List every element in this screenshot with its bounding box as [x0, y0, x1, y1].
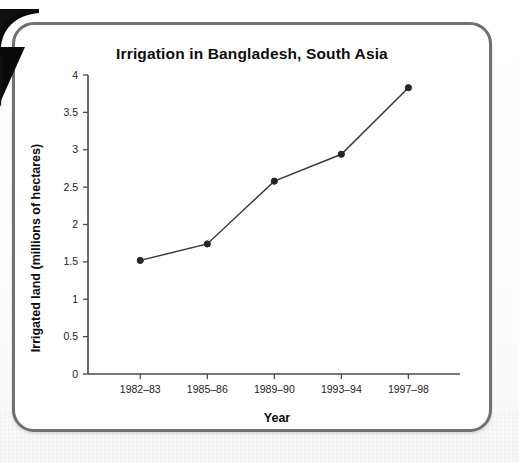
y-tick-label: 1 [72, 293, 78, 305]
data-point [137, 257, 143, 263]
y-axis-ticks: 00.511.522.533.54 [63, 69, 88, 380]
x-axis-title: Year [87, 411, 467, 425]
y-tick-label: 2.5 [63, 181, 78, 193]
y-tick-label: 3 [72, 143, 78, 155]
x-tick-label: 1985–86 [187, 383, 228, 395]
data-point [271, 178, 277, 184]
chart-axes [88, 75, 460, 374]
data-point [204, 241, 210, 247]
figure-card: Irrigation in Bangladesh, South Asia 00.… [12, 22, 492, 432]
line-chart: 00.511.522.533.54 1982–831985–861989–901… [15, 25, 495, 435]
y-tick-label: 4 [72, 69, 78, 81]
x-tick-label: 1982–83 [120, 383, 161, 395]
data-point [338, 151, 344, 157]
chart-plot-area: 00.511.522.533.54 1982–831985–861989–901… [15, 25, 495, 435]
y-tick-label: 3.5 [63, 106, 78, 118]
y-tick-label: 2 [72, 218, 78, 230]
y-tick-label: 1.5 [63, 255, 78, 267]
y-axis-title: Irrigated land (millions of hectares) [29, 113, 43, 383]
series-line-irrigated-land [140, 88, 408, 261]
x-tick-label: 1997–98 [388, 383, 429, 395]
x-tick-label: 1993–94 [321, 383, 362, 395]
data-series [137, 85, 411, 264]
x-axis-ticks: 1982–831985–861989–901993–941997–98 [120, 374, 429, 395]
y-tick-label: 0 [72, 368, 78, 380]
x-tick-label: 1989–90 [254, 383, 295, 395]
y-tick-label: 0.5 [63, 330, 78, 342]
series-markers [137, 85, 411, 264]
data-point [405, 85, 411, 91]
